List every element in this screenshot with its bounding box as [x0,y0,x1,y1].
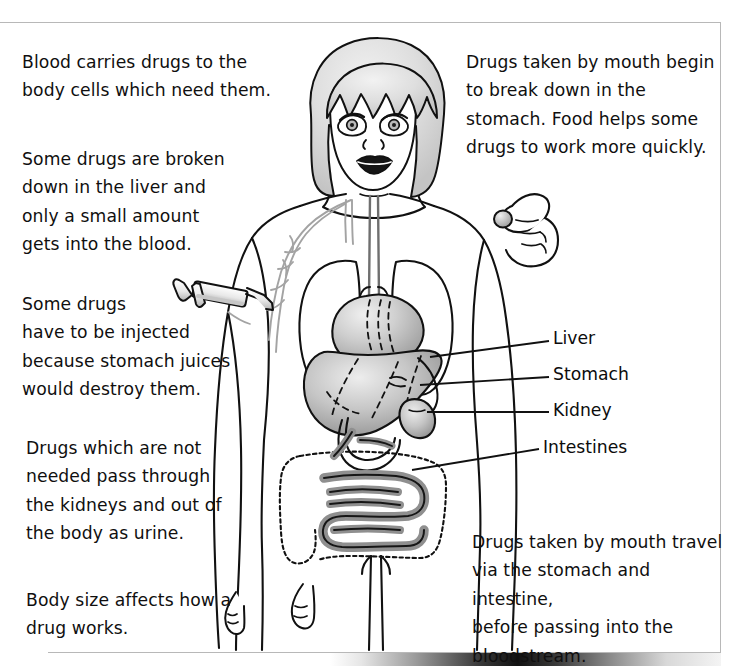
caption-mouth-travel: Drugs taken by mouth travel via the stom… [472,528,737,667]
caption-injected: Some drugs have to be injected because s… [22,290,230,404]
caption-mouth-stomach: Drugs taken by mouth begin to break down… [466,48,715,162]
duodenum [346,418,395,460]
small-intestine [323,475,424,548]
right-hand-holding-pill [494,194,558,266]
large-intestine [280,452,446,564]
face-eyes [338,114,408,136]
right-hand-lower [292,584,315,629]
caption-body-size: Body size affects how a drug works. [26,586,231,643]
gut-connector [334,432,392,456]
stomach-organ [332,295,423,366]
hair-back [310,38,444,197]
diagram-page: Blood carries drugs to the body cells wh… [0,0,737,667]
neck-and-shoulders [300,172,434,218]
face-shape [330,72,416,190]
caption-blood-carries: Blood carries drugs to the body cells wh… [22,48,271,105]
leader-stomach [420,377,549,385]
organ-label-kidney: Kidney [553,400,612,420]
organ-label-stomach: Stomach [553,364,629,384]
organ-label-liver: Liver [553,328,595,348]
caption-broken-down-liver: Some drugs are broken down in the liver … [22,145,225,259]
hair-fringe [327,64,437,118]
kidney-organ [399,399,435,438]
oesophagus [360,196,388,322]
leader-liver [430,341,549,357]
label-leader-lines [412,341,549,470]
caption-kidneys-urine: Drugs which are not needed pass through … [26,434,222,548]
blood-vessels [228,200,353,352]
organ-label-intestines: Intestines [543,437,627,457]
leader-intestines [412,449,539,470]
liver-organ [304,350,442,435]
face-mouth [357,156,392,174]
pill [494,211,512,228]
lungs [299,261,452,395]
face-nose [363,140,384,149]
top-divider-rule [0,22,721,23]
